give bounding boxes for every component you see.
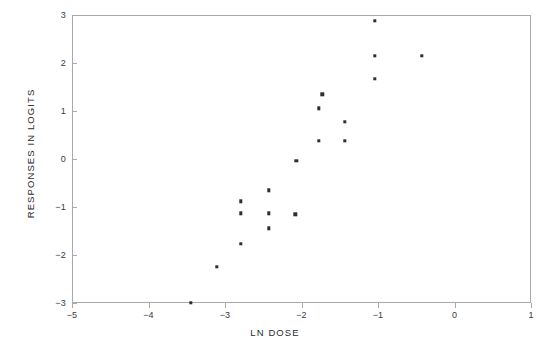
y-tick-label: −1 (52, 202, 66, 212)
data-point (239, 212, 242, 215)
y-tick-label: 1 (52, 106, 66, 116)
x-tick (149, 303, 150, 308)
data-point (215, 265, 218, 268)
y-tick (72, 159, 77, 160)
data-point (317, 106, 320, 109)
x-tick (302, 303, 303, 308)
x-axis-title: LN DOSE (0, 327, 550, 338)
x-tick (455, 303, 456, 308)
data-point (189, 301, 192, 304)
scatter-plot-figure: −5−4−3−2−101 −3−2−10123 LN DOSE RESPONSE… (0, 0, 550, 361)
data-point (239, 242, 242, 245)
x-tick-label: −5 (67, 310, 78, 320)
x-tick-label: 0 (452, 310, 457, 320)
x-tick (225, 303, 226, 308)
data-point (294, 159, 297, 162)
y-axis-title: RESPONSES IN LOGITS (25, 54, 36, 254)
data-point (267, 226, 270, 229)
x-tick-label: −3 (220, 310, 231, 320)
x-tick (378, 303, 379, 308)
data-point (373, 77, 376, 80)
data-point (317, 139, 320, 142)
y-tick (72, 255, 77, 256)
y-tick (72, 63, 77, 64)
data-point (373, 19, 376, 22)
data-point (343, 139, 346, 142)
y-tick-label: 0 (52, 154, 66, 164)
data-point (267, 212, 270, 215)
data-point (420, 54, 423, 57)
y-tick-label: −3 (52, 298, 66, 308)
data-point (267, 188, 270, 191)
y-tick (72, 111, 77, 112)
page-running-header (372, 0, 544, 7)
data-point (373, 54, 376, 57)
x-tick-label: −2 (296, 310, 307, 320)
data-point (320, 92, 323, 95)
y-tick (72, 15, 77, 16)
y-tick-label: 3 (52, 10, 66, 20)
data-point (294, 212, 297, 215)
plot-data-area (72, 15, 531, 303)
x-tick-label: −1 (373, 310, 384, 320)
y-tick (72, 207, 77, 208)
x-tick (531, 303, 532, 308)
x-tick-label: −4 (143, 310, 154, 320)
data-point (343, 120, 346, 123)
data-point (239, 200, 242, 203)
y-tick-label: −2 (52, 250, 66, 260)
y-tick (72, 303, 77, 304)
x-tick-label: 1 (528, 310, 533, 320)
y-tick-label: 2 (52, 58, 66, 68)
